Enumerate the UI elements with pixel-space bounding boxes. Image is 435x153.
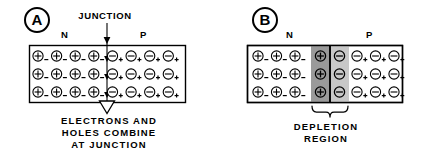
carrier-minus bbox=[334, 69, 344, 79]
panel-b-caption-line-1: DEPLETION bbox=[217, 121, 435, 132]
panel-a-recombination-arrow bbox=[100, 101, 115, 114]
depletion-n-ions bbox=[315, 51, 325, 97]
depletion-p-ions bbox=[334, 51, 344, 97]
carrier-minus bbox=[334, 51, 344, 61]
panel-a: A JUNCTION N P bbox=[0, 0, 218, 153]
panel-a-junction-arrow-top bbox=[104, 37, 111, 44]
carrier-minus bbox=[334, 87, 344, 97]
panel-b: B N P bbox=[217, 0, 435, 153]
carrier-plus bbox=[315, 87, 325, 97]
panel-a-caption-line-3: AT JUNCTION bbox=[0, 139, 218, 150]
depletion-region-brace bbox=[312, 106, 348, 117]
carrier-plus bbox=[315, 51, 325, 61]
carrier-plus bbox=[315, 69, 325, 79]
panel-a-caption-line-2: HOLES COMBINE bbox=[0, 127, 218, 138]
panel-b-n-carriers bbox=[253, 51, 305, 97]
panel-b-caption-line-2: REGION bbox=[217, 133, 435, 144]
pn-junction-figure: A JUNCTION N P bbox=[0, 0, 435, 153]
panel-b-p-carriers bbox=[352, 51, 404, 98]
panel-a-caption-line-1: ELECTRONS AND bbox=[0, 115, 218, 126]
